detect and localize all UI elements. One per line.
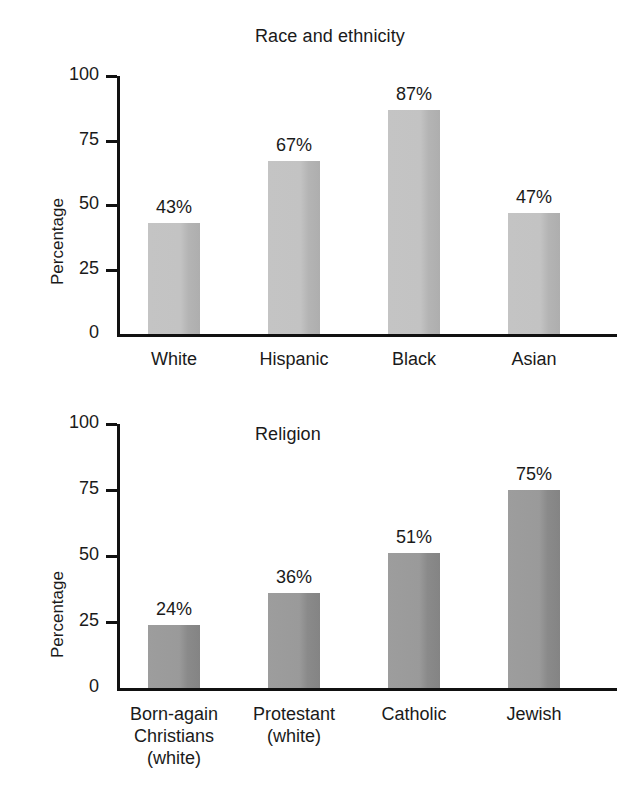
y-axis-tick-label: 0 [37, 676, 99, 697]
y-axis-tick-label: 50 [37, 193, 99, 214]
bar-value-label: 75% [484, 464, 584, 485]
y-axis-tick-label: 50 [37, 544, 99, 565]
bar-value-label: 43% [124, 197, 224, 218]
x-axis-spine [117, 688, 617, 691]
x-axis-category-label: Protestant (white) [224, 703, 364, 747]
x-axis-category-label: Black [344, 348, 484, 370]
bar-fill [148, 223, 200, 334]
y-axis-tick [106, 269, 117, 272]
y-axis-tick-label: 25 [37, 610, 99, 631]
bar-fill [268, 161, 320, 334]
x-axis-category-label: White [104, 348, 244, 370]
bar-fill [268, 593, 320, 688]
bar-fill [388, 110, 440, 334]
chart-religion: Religion Percentage 025507510024%36%51%7… [0, 398, 630, 798]
y-axis-tick-label: 100 [37, 64, 99, 85]
bar [388, 110, 440, 334]
x-axis-category-label: Catholic [344, 703, 484, 725]
bar [148, 223, 200, 334]
y-axis-tick [106, 423, 117, 426]
bar [388, 553, 440, 688]
plot-area: 025507510043%67%87%47% [117, 76, 617, 337]
y-axis-tick [106, 621, 117, 624]
chart-title: Race and ethnicity [255, 26, 405, 47]
y-axis-tick [106, 204, 117, 207]
bar-fill [148, 625, 200, 688]
bar [148, 625, 200, 688]
chart-race-and-ethnicity: Race and ethnicity Percentage 0255075100… [0, 0, 630, 398]
bar-value-label: 87% [364, 84, 464, 105]
bar [508, 490, 560, 688]
x-axis-spine [117, 334, 617, 337]
y-axis-tick-label: 75 [37, 478, 99, 499]
bar [268, 593, 320, 688]
bar [508, 213, 560, 334]
y-axis-tick [106, 75, 117, 78]
x-axis-category-label: Asian [464, 348, 604, 370]
y-axis-spine [117, 424, 120, 691]
y-axis-tick [106, 489, 117, 492]
plot-area: 025507510024%36%51%75% [117, 424, 617, 691]
bar-value-label: 67% [244, 135, 344, 156]
bar-value-label: 36% [244, 567, 344, 588]
bar-value-label: 24% [124, 599, 224, 620]
x-axis-category-label: Born-again Christians (white) [104, 703, 244, 769]
y-axis-tick-label: 0 [37, 322, 99, 343]
y-axis-tick [106, 555, 117, 558]
y-axis-tick-label: 100 [37, 412, 99, 433]
y-axis-tick-label: 25 [37, 258, 99, 279]
y-axis-spine [117, 76, 120, 337]
x-axis-category-label: Hispanic [224, 348, 364, 370]
bar-value-label: 47% [484, 187, 584, 208]
bar [268, 161, 320, 334]
y-axis-tick-label: 75 [37, 129, 99, 150]
bar-fill [508, 490, 560, 688]
bar-fill [508, 213, 560, 334]
y-axis-tick [106, 140, 117, 143]
bar-value-label: 51% [364, 527, 464, 548]
x-axis-category-label: Jewish [464, 703, 604, 725]
bar-fill [388, 553, 440, 688]
